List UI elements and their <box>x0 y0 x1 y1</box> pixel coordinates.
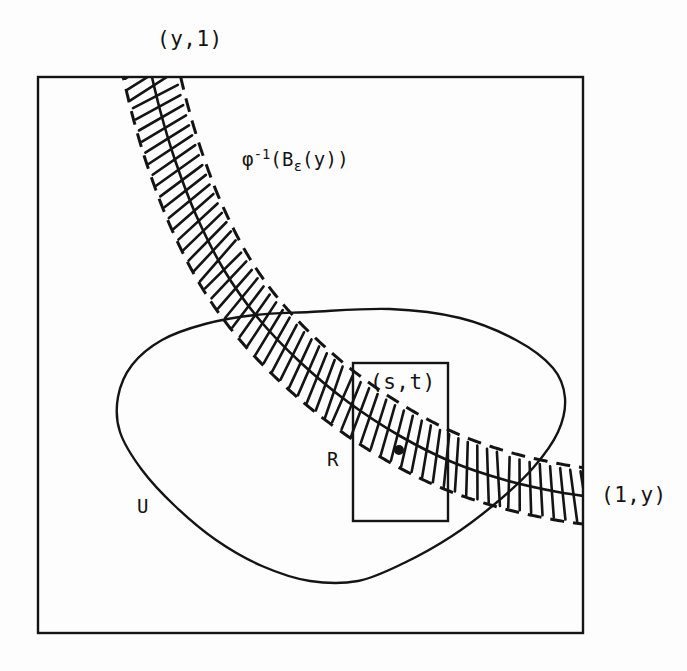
ball-open: (B <box>270 148 293 170</box>
band-boundary-lower <box>175 54 602 470</box>
label-corner-top: (y,1) <box>157 29 223 50</box>
phi-exponent: -1 <box>254 146 270 162</box>
label-corner-right: (1,y) <box>601 485 667 506</box>
label-point-s-t: (s,t) <box>370 372 436 393</box>
open-set-u-outline <box>117 309 565 583</box>
ball-tail: (y)) <box>302 148 349 170</box>
phi-inverse-band <box>121 50 602 525</box>
band-hatching <box>125 50 599 524</box>
phi-glyph: φ <box>242 148 254 170</box>
label-region-u: U <box>137 497 148 516</box>
point-s-t-marker <box>394 445 404 455</box>
label-phi-inverse-band: φ-1(Bε(y)) <box>242 148 349 174</box>
diagram-svg <box>0 0 687 671</box>
figure-canvas: (y,1) φ-1(Bε(y)) (s,t) R U (1,y) <box>0 0 687 671</box>
epsilon-glyph: ε <box>294 158 302 174</box>
label-rectangle-r: R <box>327 450 338 469</box>
